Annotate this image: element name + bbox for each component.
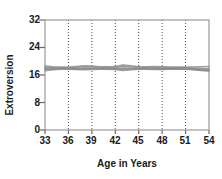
- tick-marks-group: [39, 20, 209, 134]
- data-lines-group: [45, 65, 209, 71]
- gridlines-group: [68, 20, 185, 130]
- axes-group: [45, 20, 209, 130]
- extroversion-age-line-chart: Extroversion 32 24 16 8 0 33 36 39 42 45…: [0, 0, 222, 179]
- plot-area: [0, 0, 222, 179]
